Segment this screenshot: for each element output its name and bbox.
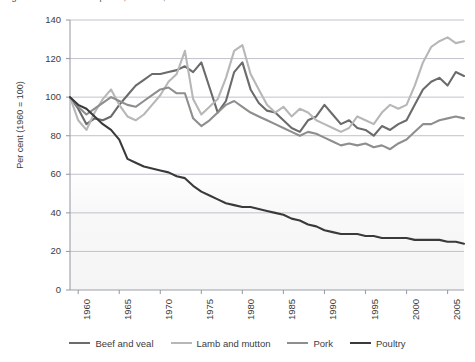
legend-item[interactable]: Poultry [350, 338, 406, 349]
legend-item[interactable]: Lamb and mutton [171, 338, 271, 349]
y-tick-label-60: 60 [31, 169, 61, 179]
x-tick-label-1980: 1980 [246, 299, 256, 320]
y-tick-label-120: 120 [31, 54, 61, 64]
y-tick-label-140: 140 [31, 15, 61, 25]
legend-swatch-icon [350, 342, 371, 345]
legend-item[interactable]: Pork [287, 338, 333, 349]
legend-swatch-icon [171, 342, 192, 345]
legend-swatch-icon [287, 342, 308, 345]
y-tick-label-100: 100 [31, 92, 61, 102]
plot-background-tint [70, 20, 464, 290]
x-tick-label-1965: 1965 [123, 299, 133, 320]
y-tick-label-80: 80 [31, 131, 61, 141]
chart-legend: Beef and vealLamb and muttonPorkPoultry [0, 334, 475, 352]
x-tick-label-1985: 1985 [287, 299, 297, 320]
legend-item[interactable]: Beef and veal [69, 338, 153, 349]
x-tick-label-1975: 1975 [205, 299, 215, 320]
y-tick-label-20: 20 [31, 246, 61, 256]
legend-label: Beef and veal [95, 338, 153, 349]
y-tick-label-40: 40 [31, 208, 61, 218]
x-tick-label-2000: 2000 [411, 299, 421, 320]
y-tick-label-0: 0 [31, 285, 61, 295]
legend-label: Lamb and mutton [197, 338, 271, 349]
legend-swatch-icon [69, 342, 90, 345]
x-tick-label-2005: 2005 [452, 299, 462, 320]
plot-area [0, 0, 475, 362]
x-tick-label-1970: 1970 [164, 299, 174, 320]
x-tick-label-1990: 1990 [328, 299, 338, 320]
legend-label: Pork [313, 338, 333, 349]
figure-meat-prices: Figure 1: Relative meat prices, Australi… [0, 0, 475, 362]
line-chart-svg [0, 0, 475, 362]
x-tick-label-1995: 1995 [370, 299, 380, 320]
x-tick-label-1960: 1960 [82, 299, 92, 320]
legend-label: Poultry [376, 338, 406, 349]
